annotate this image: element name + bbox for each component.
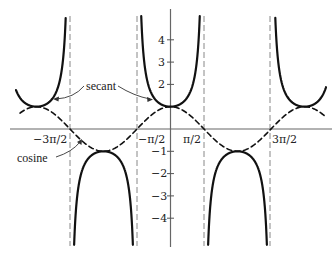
y-tick-label-4: 4: [158, 34, 165, 47]
x-tick-label-neg-3pi-2: −3π/2: [33, 133, 67, 146]
y-tick-label-n4: −4: [151, 212, 167, 225]
y-tick-label-n3: −3: [151, 190, 167, 203]
cosine-label: cosine: [17, 151, 48, 165]
y-tick-label-n1: −1: [151, 145, 167, 158]
y-tick-label-n2: −2: [151, 167, 167, 180]
x-tick-label-3pi-2: 3π/2: [272, 133, 297, 146]
secant-cosine-graph: secant cosine −3π/2 −π/2 π/2 3π/2 4 3 2 …: [0, 0, 335, 259]
y-tick-label-3: 3: [158, 56, 165, 69]
secant-label: secant: [86, 79, 117, 93]
secant-arrow-right: [118, 86, 150, 99]
y-tick-label-2: 2: [158, 78, 165, 91]
x-tick-label-pi-2: π/2: [183, 133, 201, 146]
